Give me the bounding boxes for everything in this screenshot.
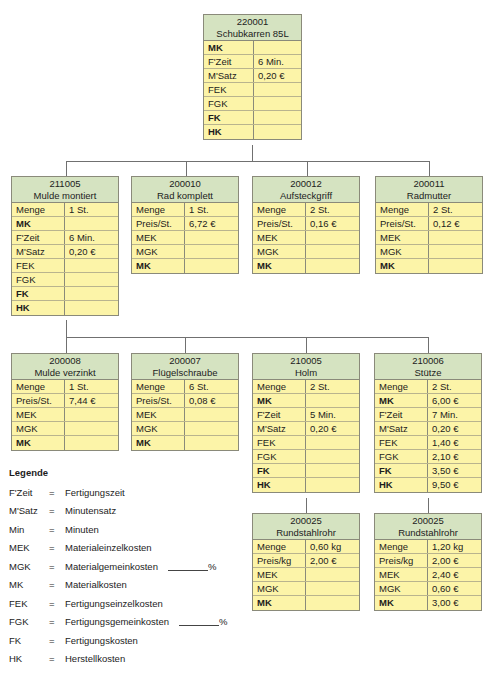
row-label: MGK (132, 245, 185, 258)
table-row: Menge2 St. (375, 380, 481, 394)
row-value (65, 422, 118, 435)
table-row: MGK (253, 245, 359, 259)
node-name: Mulde montiert (12, 190, 118, 202)
row-label: HK (204, 125, 254, 139)
row-value (306, 450, 359, 463)
row-label: Menge (132, 203, 185, 216)
row-label: Preis/St. (253, 217, 306, 230)
row-label: F'Zeit (204, 55, 254, 68)
row-value: 1,20 kg (428, 540, 481, 553)
row-label: FK (375, 464, 428, 477)
table-row: MGK (376, 245, 482, 259)
legend-abbr: FEK (9, 598, 49, 609)
table-row: MK3,00 € (375, 596, 481, 610)
legend-text: Fertigungseinzelkosten (65, 598, 163, 609)
node-header: 200025Rundstahlrohr (375, 514, 481, 540)
legend-abbr: MK (9, 579, 49, 590)
fill-in-blank[interactable] (179, 617, 219, 626)
row-label: FEK (12, 259, 65, 272)
node-name: Rad komplett (132, 190, 238, 202)
row-value (306, 259, 359, 273)
connector (186, 161, 187, 176)
table-row: HK (204, 125, 301, 139)
row-label: MGK (12, 422, 65, 435)
row-value: 1 St. (65, 203, 118, 216)
legend-item: FGK=Fertigungsgemeinkosten% (9, 613, 228, 632)
row-label: Preis/kg (375, 554, 428, 567)
table-row: FEK1,40 € (375, 436, 481, 450)
row-value: 1,40 € (428, 436, 481, 449)
row-value: 2 St. (428, 380, 481, 393)
row-label: M'Satz (253, 422, 306, 435)
table-row: FGK (12, 273, 118, 287)
table-row: F'Zeit7 Min. (375, 408, 481, 422)
table-row: FEK (253, 436, 359, 450)
table-row: MGK (132, 422, 238, 436)
connector (306, 498, 307, 513)
legend-item: FEK=Fertigungseinzelkosten (9, 594, 228, 613)
row-label: MGK (132, 422, 185, 435)
row-value: 2 St. (429, 203, 482, 216)
table-row: FGK (204, 97, 301, 111)
row-label: FK (204, 111, 254, 124)
table-row: Preis/kg2,00 € (253, 554, 359, 568)
row-value: 2,00 € (428, 554, 481, 567)
table-row: FK3,50 € (375, 464, 481, 478)
table-row: MK (12, 436, 118, 450)
row-label: Menge (376, 203, 429, 216)
table-row: Preis/St.0,08 € (132, 394, 238, 408)
legend-abbr: FGK (9, 616, 49, 627)
table-row: FK (204, 111, 301, 125)
row-label: MK (132, 436, 185, 450)
legend-item: MK=Materialkosten (9, 576, 228, 595)
connector (306, 337, 307, 353)
row-value: 0,60 € (428, 582, 481, 595)
row-label: MGK (253, 245, 306, 258)
row-value: 1 St. (185, 203, 238, 216)
row-value: 0,20 € (65, 245, 118, 258)
connector (428, 337, 429, 353)
node-header: 210006Stütze (375, 354, 481, 380)
table-row: Preis/St.6,72 € (132, 217, 238, 231)
row-label: M'Satz (12, 245, 65, 258)
table-row: FEK (204, 83, 301, 97)
legend-text: Materialeinzelkosten (65, 542, 152, 553)
percent-sign: % (219, 616, 227, 627)
table-row: Menge1 St. (132, 203, 238, 217)
legend-abbr: F'Zeit (9, 487, 49, 498)
table-row: Preis/St.0,16 € (253, 217, 359, 231)
node-header: 200011Radmutter (376, 177, 482, 203)
row-label: MK (375, 596, 428, 610)
node-radmutter: 200011RadmutterMenge2 St.Preis/St.0,12 €… (375, 176, 483, 274)
row-value (65, 301, 118, 315)
table-row: MK (376, 259, 482, 273)
fill-in-blank[interactable] (168, 562, 208, 571)
row-label: MK (375, 394, 428, 407)
legend-abbr: MEK (9, 542, 49, 553)
row-value: 2 St. (306, 380, 359, 393)
row-label: F'Zeit (253, 408, 306, 421)
table-row: FK (12, 287, 118, 301)
table-row: FGK2,10 € (375, 450, 481, 464)
row-label: MK (253, 394, 306, 407)
node-rundstahlrohr-2: 200025RundstahlrohrMenge1,20 kgPreis/kg2… (374, 513, 482, 611)
row-value (306, 478, 359, 492)
row-label: Menge (253, 203, 306, 216)
table-row: MEK2,40 € (375, 568, 481, 582)
node-mulde-montiert: 211005Mulde montiertMenge1 St.MKF'Zeit6 … (11, 176, 119, 316)
table-row: MK (253, 596, 359, 610)
table-row: MK (12, 217, 118, 231)
table-row: MGK (253, 582, 359, 596)
row-label: MK (376, 259, 429, 273)
row-value: 0,20 € (254, 69, 301, 82)
node-header: 200007Flügelschraube (132, 354, 238, 380)
row-value: 3,50 € (428, 464, 481, 477)
table-row: MGK (132, 245, 238, 259)
node-rundstahlrohr-1: 200025RundstahlrohrMenge0,60 kgPreis/kg2… (252, 513, 360, 611)
legend-equals: = (49, 505, 65, 516)
table-row: MK (132, 259, 238, 273)
row-label: MGK (376, 245, 429, 258)
row-label: F'Zeit (12, 231, 65, 244)
table-row: M'Satz0,20 € (12, 245, 118, 259)
row-value (185, 245, 238, 258)
